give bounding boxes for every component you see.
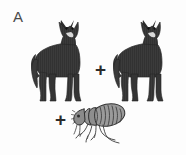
wolf-silhouette-icon (112, 14, 178, 108)
panel-label: A (13, 9, 23, 24)
flea-illustration-icon (71, 99, 133, 151)
wolf-silhouette-icon (30, 14, 96, 108)
plus-operator-before-flea: + (55, 110, 66, 129)
figure-panel: A (0, 0, 186, 155)
plus-operator-between-wolves: + (95, 60, 106, 79)
